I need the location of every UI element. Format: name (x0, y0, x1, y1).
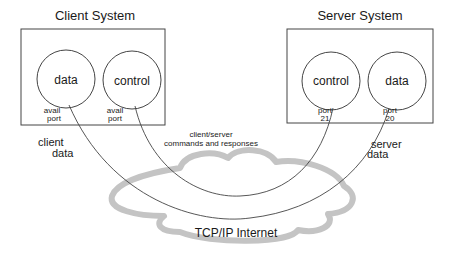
connection-label-2: commands and responses (164, 139, 258, 148)
server-data-label: data (385, 74, 409, 88)
ftp-diagram: Client System Server System data control… (0, 0, 451, 260)
client-control-port-label-2: port (108, 114, 123, 123)
client-control-label: control (114, 74, 150, 88)
client-data-label: data (54, 73, 78, 87)
network-label: TCP/IP Internet (195, 226, 278, 240)
client-data-flow-label-2: data (52, 147, 74, 159)
connection-label-1: client/server (189, 130, 232, 139)
server-control-label: control (313, 74, 349, 88)
client-system-title: Client System (55, 8, 135, 23)
client-data-port-label-2: port (47, 114, 62, 123)
server-data-port-label-2: 20 (386, 114, 395, 123)
server-system-title: Server System (317, 8, 402, 23)
server-control-port-label-2: 21 (321, 114, 330, 123)
server-data-flow-label-2: data (367, 148, 389, 160)
